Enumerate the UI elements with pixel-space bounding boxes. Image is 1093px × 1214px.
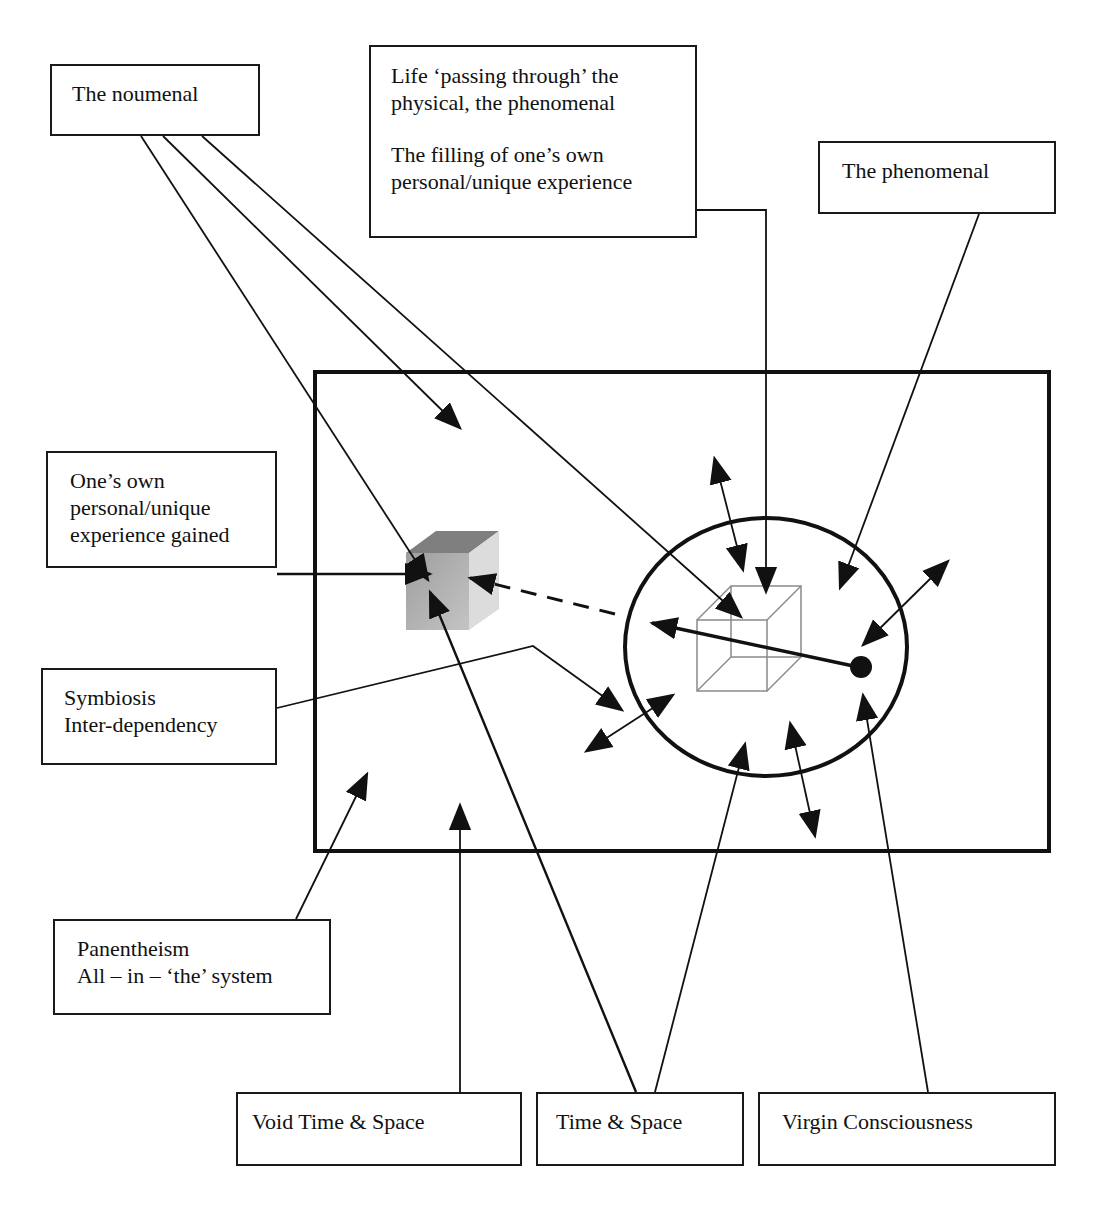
solid-cube — [406, 531, 499, 630]
label-timespace-text: Time & Space — [556, 1108, 742, 1135]
label-void-text: Void Time & Space — [252, 1108, 520, 1135]
label-virgin-consciousness: Virgin Consciousness — [758, 1092, 1056, 1166]
label-time-space: Time & Space — [536, 1092, 744, 1166]
label-experience-gained: One’s own personal/unique experience gai… — [46, 451, 277, 568]
label-phenomenal-text: The phenomenal — [842, 157, 1054, 184]
label-gained-line-3: experience gained — [70, 521, 275, 548]
label-virgin-text: Virgin Consciousness — [782, 1108, 1054, 1135]
label-noumenal-text: The noumenal — [72, 80, 258, 107]
label-life-spacer — [391, 116, 695, 141]
wire-cube — [697, 586, 801, 691]
label-life-passing-through: Life ‘passing through’ the physical, the… — [369, 45, 697, 238]
label-panentheism-line-1: Panentheism — [77, 935, 329, 962]
label-life-line-2: physical, the phenomenal — [391, 89, 695, 116]
label-void-time-space: Void Time & Space — [236, 1092, 522, 1166]
label-symbiosis-line-1: Symbiosis — [64, 684, 275, 711]
label-panentheism-line-2: All – in – ‘the’ system — [77, 962, 329, 989]
label-symbiosis-line-2: Inter-dependency — [64, 711, 275, 738]
label-life-line-1: Life ‘passing through’ the — [391, 62, 695, 89]
label-gained-line-1: One’s own — [70, 467, 275, 494]
label-phenomenal: The phenomenal — [818, 141, 1056, 214]
label-panentheism: Panentheism All – in – ‘the’ system — [53, 919, 331, 1015]
label-noumenal: The noumenal — [50, 64, 260, 136]
label-gained-line-2: personal/unique — [70, 494, 275, 521]
label-symbiosis: Symbiosis Inter-dependency — [41, 668, 277, 765]
label-life-line-4: personal/unique experience — [391, 168, 695, 195]
label-life-line-3: The filling of one’s own — [391, 141, 695, 168]
